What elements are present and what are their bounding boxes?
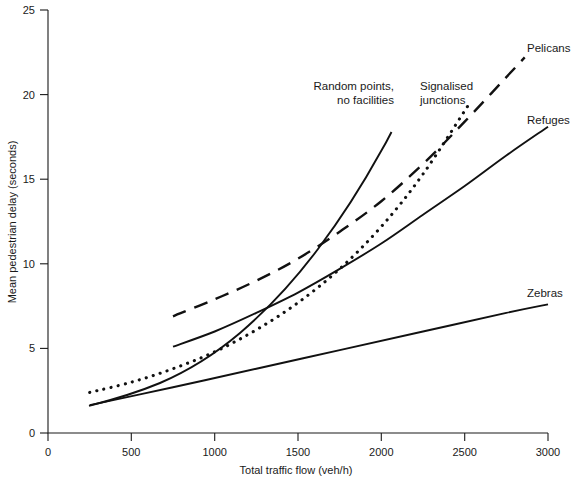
annotation-refuges: Refuges (527, 114, 570, 126)
xtick-label-2500: 2500 (452, 446, 476, 458)
x-axis-title: Total traffic flow (veh/h) (240, 464, 353, 476)
y-axis-title: Mean pedestrian delay (seconds) (6, 141, 18, 304)
xtick-label-1000: 1000 (202, 446, 226, 458)
axis-lines (48, 10, 548, 433)
xtick-label-1500: 1500 (286, 446, 310, 458)
annotation-random-points-line1: Random points, (313, 80, 394, 92)
series-line-refuges (173, 127, 548, 347)
chart-figure: 25 20 15 10 5 0 0 500 1000 1500 2000 250… (0, 0, 583, 477)
ytick-label-5: 5 (29, 342, 35, 354)
annotation-signalised-line2: junctions (419, 94, 466, 106)
xtick-label-500: 500 (122, 446, 140, 458)
annotation-signalised-junctions: Signalised junctions (419, 80, 473, 106)
y-tick-labels: 25 20 15 10 5 0 (23, 4, 35, 439)
x-tick-labels: 0 500 1000 1500 2000 2500 3000 (45, 446, 560, 458)
annotation-zebras: Zebras (527, 287, 563, 299)
series-line-random-points (89, 132, 392, 406)
annotation-random-points: Random points, no facilities (313, 80, 394, 106)
annotation-pelicans: Pelicans (527, 42, 571, 54)
annotation-signalised-line1: Signalised (420, 80, 473, 92)
ytick-label-25: 25 (23, 4, 35, 16)
ytick-label-10: 10 (23, 258, 35, 270)
series-line-signalised-junctions (90, 103, 470, 392)
xtick-label-3000: 3000 (536, 446, 560, 458)
axes-group (40, 10, 548, 441)
annotation-random-points-line2: no facilities (337, 94, 394, 106)
pedestrian-delay-line-chart: 25 20 15 10 5 0 0 500 1000 1500 2000 250… (0, 0, 583, 477)
xtick-label-2000: 2000 (369, 446, 393, 458)
ytick-label-20: 20 (23, 89, 35, 101)
ytick-label-15: 15 (23, 173, 35, 185)
xtick-label-0: 0 (45, 446, 51, 458)
series-line-zebras (90, 304, 548, 405)
ytick-label-0: 0 (29, 427, 35, 439)
